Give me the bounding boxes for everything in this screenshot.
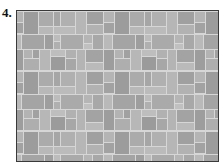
pattern-tile [93, 35, 103, 49]
pattern-tile [195, 35, 203, 49]
pattern-tile [167, 132, 177, 154]
pattern-tile [61, 132, 75, 146]
pattern-tile [104, 132, 114, 142]
tile-pattern-frame [16, 10, 219, 162]
pattern-tile [16, 132, 23, 142]
pattern-tile [204, 155, 219, 162]
pattern-tile [54, 132, 60, 146]
pattern-tile [54, 12, 60, 26]
pattern-tile [113, 35, 135, 49]
pattern-tile [66, 50, 76, 58]
pattern-tile [145, 147, 166, 154]
pattern-tile [115, 59, 130, 70]
pattern-tile [178, 132, 194, 144]
pattern-tile [195, 12, 205, 22]
pattern-tile [167, 12, 177, 34]
pattern-tile [51, 117, 65, 130]
pattern-tile [184, 95, 194, 109]
pattern-tile [130, 72, 144, 86]
pattern-tile [54, 87, 75, 94]
pattern-tile [178, 25, 194, 34]
pattern-tile [40, 110, 50, 130]
pattern-tile [145, 27, 166, 34]
pattern-tile [206, 110, 214, 118]
pattern-tile [54, 42, 60, 49]
pattern-tile [152, 35, 174, 49]
pattern-tile [39, 147, 53, 154]
pattern-tile [113, 155, 135, 162]
pattern-tile [178, 72, 194, 84]
pattern-tile [184, 35, 194, 49]
pattern-tile [104, 95, 112, 109]
pattern-tile [124, 50, 130, 58]
pattern-tile [22, 155, 44, 162]
pattern-tile [87, 145, 103, 154]
pattern-tile [130, 12, 144, 26]
pattern-tile [136, 95, 144, 109]
pattern-tile [152, 72, 166, 86]
pattern-tile [195, 50, 205, 70]
pattern-tile [61, 35, 83, 49]
pattern-tile [66, 59, 76, 70]
pattern-tile [16, 12, 23, 22]
pattern-tile [115, 132, 129, 154]
pattern-tile [206, 119, 219, 130]
pattern-tile [84, 155, 92, 162]
pattern-tile [54, 147, 75, 154]
pattern-tile [206, 72, 219, 94]
pattern-tile [24, 132, 38, 154]
pattern-tile [177, 63, 194, 70]
pattern-tile [104, 35, 112, 49]
pattern-tile [104, 143, 114, 153]
pattern-tile [33, 110, 39, 118]
pattern-tile [76, 12, 86, 34]
pattern-tile [177, 123, 194, 130]
pattern-tile [16, 72, 23, 82]
pattern-tile [142, 50, 156, 56]
pattern-tile [113, 95, 135, 109]
pattern-tile [86, 50, 103, 62]
pattern-tile [152, 132, 166, 146]
pattern-tile [157, 59, 167, 70]
pattern-tile [104, 155, 112, 162]
pattern-tile [87, 132, 103, 144]
pattern-tile [24, 72, 38, 94]
pattern-tile [86, 123, 103, 130]
pattern-tile [145, 12, 151, 26]
pattern-tile [77, 50, 85, 70]
pattern-tile [87, 25, 103, 34]
pattern-tile [145, 35, 151, 41]
pattern-tile [39, 87, 53, 94]
pattern-tile [104, 83, 114, 93]
pattern-tile [54, 27, 75, 34]
pattern-tile [16, 143, 23, 153]
pattern-tile [145, 87, 166, 94]
pattern-tile [145, 102, 151, 109]
pattern-tile [51, 57, 65, 70]
pattern-tile [54, 95, 60, 101]
pattern-tile [39, 27, 53, 34]
pattern-tile [86, 110, 103, 122]
pattern-tile [204, 95, 219, 109]
pattern-tile [145, 155, 151, 161]
pattern-tile [195, 72, 205, 82]
pattern-tile [131, 50, 141, 70]
pattern-tile [16, 95, 21, 109]
pattern-tile [24, 50, 32, 58]
tile-pattern [17, 11, 218, 161]
pattern-tile [66, 119, 76, 130]
pattern-tile [130, 27, 144, 34]
pattern-tile [51, 50, 65, 56]
pattern-tile [168, 50, 176, 70]
pattern-tile [215, 50, 219, 58]
pattern-tile [61, 12, 75, 26]
pattern-tile [115, 119, 130, 130]
pattern-tile [54, 155, 60, 161]
pattern-tile [195, 110, 205, 130]
pattern-tile [104, 50, 114, 70]
pattern-tile [24, 59, 39, 70]
pattern-tile [22, 95, 44, 109]
pattern-tile [145, 72, 151, 86]
pattern-tile [66, 110, 76, 118]
pattern-tile [131, 110, 141, 130]
